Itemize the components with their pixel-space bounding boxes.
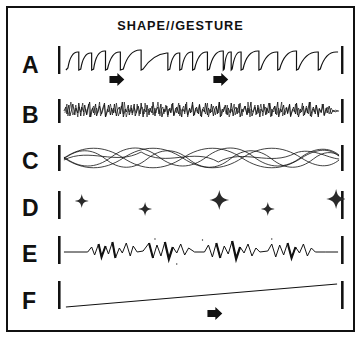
- sine-wave-c-1: [64, 148, 339, 168]
- signal-plot-c: [58, 138, 345, 184]
- sparkle-icon-4: [261, 202, 275, 216]
- sine-wave-c-2: [64, 148, 339, 168]
- gesture-arrow-f-1: [207, 307, 222, 320]
- row-label-b: B: [22, 104, 39, 127]
- row-label-f: F: [22, 290, 36, 313]
- signal-row-b: B: [8, 92, 353, 138]
- trace-area-a: [58, 42, 345, 88]
- signal-plot-b: [58, 92, 345, 138]
- trace-area-f: [58, 278, 345, 324]
- signal-row-f: F: [8, 278, 353, 324]
- speck-dot-1: [154, 238, 155, 239]
- row-label-e: E: [22, 243, 37, 266]
- row-label-c: C: [22, 150, 39, 173]
- left-tick-bar-f: [58, 281, 61, 309]
- left-tick-bar-a: [58, 46, 60, 74]
- signal-plot-d: [58, 185, 345, 231]
- row-label-a: A: [22, 54, 39, 77]
- speck-dot-4: [176, 263, 177, 264]
- waveform-e-bold-2: [112, 242, 115, 258]
- right-tick-bar-a: [341, 46, 343, 74]
- speck-dot-3: [271, 238, 272, 239]
- signal-plot-a: [58, 42, 345, 88]
- right-tick-bar-c: [341, 145, 344, 171]
- sine-wave-c-3: [64, 151, 339, 168]
- speck-dot-2: [202, 239, 203, 240]
- left-tick-bar-c: [58, 145, 61, 171]
- waveform-e-bold-1: [99, 244, 106, 257]
- left-tick-bar-b: [58, 99, 61, 123]
- signal-row-c: C: [8, 138, 353, 184]
- sparkle-icon-3: [209, 190, 229, 210]
- signal-row-d: D: [8, 185, 353, 231]
- waveform-e-bold-6: [216, 243, 220, 258]
- left-tick-bar-e: [58, 236, 61, 264]
- waveform-e-bold-3: [165, 242, 173, 259]
- right-tick-bar-d: [341, 191, 344, 219]
- figure-title: SHAPE//GESTURE: [18, 18, 342, 33]
- signal-row-e: E: [8, 231, 353, 277]
- waveform-e-bold-5: [232, 241, 240, 259]
- signal-row-a: A: [8, 42, 353, 88]
- waveform-a: [66, 50, 338, 70]
- trace-area-d: [58, 185, 345, 231]
- trace-area-e: [58, 231, 345, 277]
- ramp-line-f: [66, 284, 337, 307]
- gesture-arrow-a-2: [213, 73, 228, 86]
- signal-plot-e: [58, 231, 345, 277]
- sparkle-icon-1: [75, 194, 89, 208]
- row-label-d: D: [22, 197, 39, 220]
- left-tick-bar-d: [58, 191, 61, 219]
- right-tick-bar-e: [341, 236, 344, 264]
- signal-plot-f: [58, 278, 345, 324]
- right-tick-bar-f: [341, 281, 344, 309]
- waveform-e-bold-7: [288, 243, 296, 258]
- trace-area-c: [58, 138, 345, 184]
- trace-area-b: [58, 92, 345, 138]
- gesture-arrow-a-1: [109, 73, 124, 86]
- shape-gesture-figure: SHAPE//GESTURE A B: [6, 6, 355, 332]
- right-tick-bar-b: [341, 99, 344, 123]
- waveform-e-bold-4: [149, 243, 153, 258]
- sparkle-icon-2: [138, 202, 152, 216]
